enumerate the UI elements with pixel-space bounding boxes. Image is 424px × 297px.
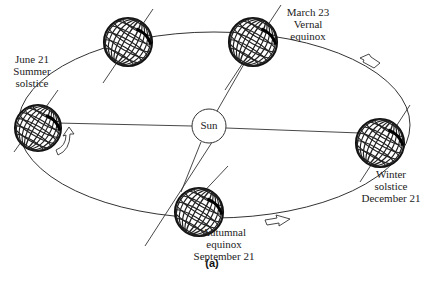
label-line: Summer (3, 65, 61, 77)
figure-caption: (a) (200, 257, 224, 269)
label-winter-solstice: Winter solstice December 21 (358, 168, 424, 204)
label-line: December 21 (358, 192, 424, 204)
label-line: solstice (358, 180, 424, 192)
sun-label: Sun (192, 119, 226, 131)
label-vernal-equinox: March 23 Vernal equinox (278, 6, 338, 42)
label-line: solstice (3, 77, 61, 89)
label-autumnal-equinox: Autumnal equinox September 21 (188, 226, 260, 262)
label-line: Autumnal (188, 226, 260, 238)
label-line: March 23 (278, 6, 338, 18)
globe-vernal-equinox (220, 9, 286, 75)
label-line: September 21 (188, 250, 260, 262)
label-line: equinox (188, 238, 260, 250)
orbit-arrow-upper-right-icon (360, 54, 380, 68)
label-summer-solstice: June 21 Summer solstice (3, 53, 61, 89)
label-line: Winter (358, 168, 424, 180)
label-line: equinox (278, 30, 338, 42)
orbit-arrow-lower-right-icon (265, 215, 290, 226)
globe-winter-solstice (347, 110, 413, 176)
label-line: June 21 (3, 53, 61, 65)
globe-upper-left (95, 9, 161, 75)
label-line: Vernal (278, 18, 338, 30)
